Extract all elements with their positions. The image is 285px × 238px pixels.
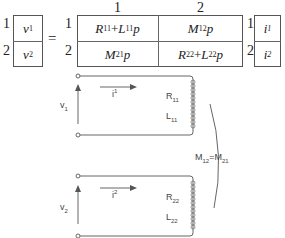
loop1-resistance-label: R11 xyxy=(166,91,179,103)
loop1-current-label: i1 xyxy=(112,88,117,99)
circuit-diagram xyxy=(0,0,285,238)
loop2-inductance-label: L22 xyxy=(166,212,178,224)
loop2-resistance-label: R22 xyxy=(166,192,179,204)
mutual-inductance-label: M12=M21 xyxy=(195,152,229,164)
loop1-inductance-label: L11 xyxy=(166,111,177,123)
loop1-voltage-label: v1 xyxy=(60,100,68,112)
loop2-voltage-label: v2 xyxy=(60,202,68,214)
loop2-current-label: i2 xyxy=(112,189,117,200)
